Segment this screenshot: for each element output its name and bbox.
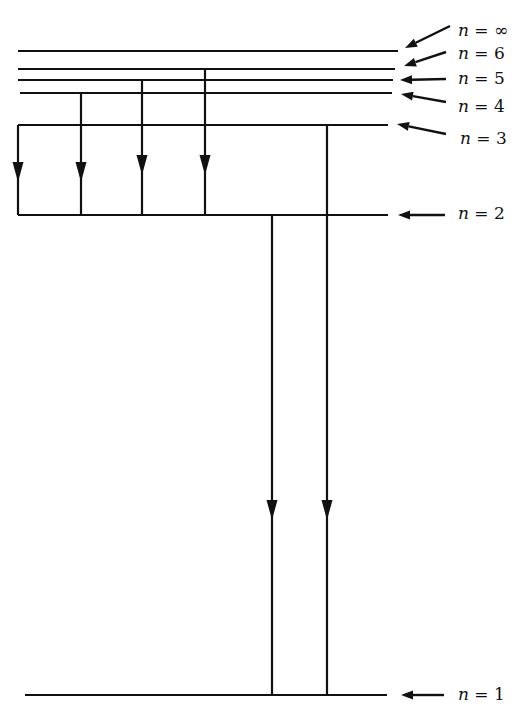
transition-6-to-2: [200, 69, 211, 215]
energy-level-diagram: [0, 0, 524, 715]
level-label-n-2: n = 2: [458, 203, 505, 223]
transition-2-to-1: [267, 215, 278, 695]
pointer-arrow-icon: [397, 122, 446, 134]
pointer-arrow-icon: [405, 26, 450, 48]
transition-5-to-2: [137, 80, 148, 215]
level-label-n-1: n = 1: [458, 684, 505, 704]
down-arrow-icon: [137, 155, 148, 175]
pointer-arrow-icon: [400, 75, 446, 84]
down-arrow-icon: [76, 162, 87, 182]
pointer-arrow-icon: [401, 92, 446, 102]
transition-3-to-2: [13, 125, 24, 215]
pointer-arrow-icon: [401, 691, 444, 700]
energy-levels: [18, 51, 398, 695]
level-label-n-3: n = 3: [460, 128, 507, 148]
down-arrow-icon: [267, 500, 278, 520]
pointer-arrow-icon: [404, 52, 446, 66]
down-arrow-icon: [322, 500, 333, 520]
level-label-n-6: n = 6: [458, 43, 505, 63]
level-label-n-inf: n = ∞: [458, 20, 508, 40]
pointer-arrow-icon: [398, 211, 445, 220]
level-label-n-4: n = 4: [458, 96, 505, 116]
transition-4-to-2: [76, 93, 87, 215]
down-arrow-icon: [200, 155, 211, 175]
label-pointer-arrows: [397, 26, 450, 700]
level-label-n-5: n = 5: [458, 68, 505, 88]
transitions: [13, 69, 333, 695]
transition-3-to-1: [322, 125, 333, 695]
down-arrow-icon: [13, 162, 24, 182]
